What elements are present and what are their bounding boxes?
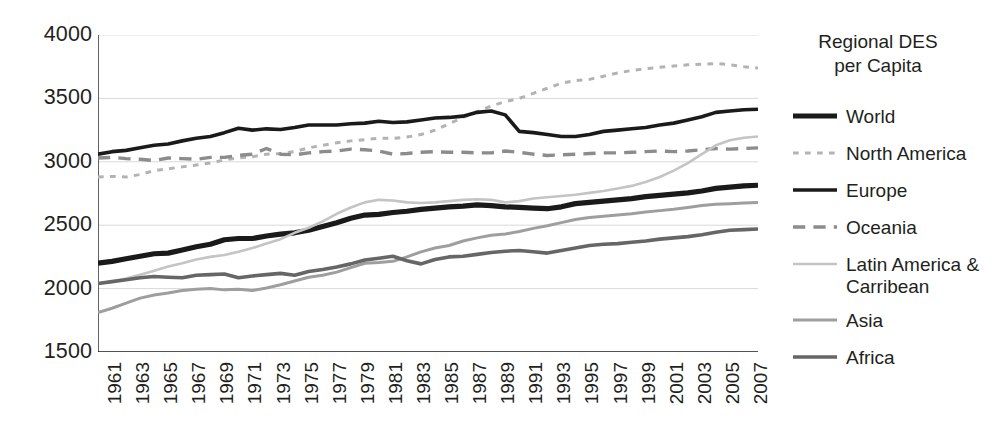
legend-title: Regional DESper Capita	[795, 30, 961, 79]
legend-swatch-icon	[793, 105, 837, 127]
x-tick-label: 1975	[302, 362, 321, 404]
x-tick-label: 1997	[611, 362, 630, 404]
legend-item-asia[interactable]: Asia	[793, 309, 993, 335]
legend: Regional DESper Capita WorldNorth Americ…	[793, 30, 993, 383]
x-tick-label: 2007	[751, 362, 770, 404]
x-tick-label: 1999	[639, 362, 658, 404]
x-tick-label: 1985	[442, 362, 461, 404]
legend-label-line-1: Latin America &	[846, 254, 979, 276]
y-axis: 400035003000250020001500	[0, 0, 92, 436]
y-tick-label: 2000	[6, 278, 92, 300]
legend-label-line-1: Africa	[846, 347, 895, 369]
legend-label-line-1: North America	[846, 143, 966, 165]
x-tick-label: 1969	[217, 362, 236, 404]
legend-label-line-1: Europe	[846, 180, 907, 202]
legend-item-label: World	[846, 105, 895, 128]
x-tick-label: 1991	[526, 362, 545, 404]
legend-item-latin-america-carribean[interactable]: Latin America &Carribean	[793, 253, 993, 299]
series-line-asia	[98, 202, 758, 312]
x-tick-label: 1981	[386, 362, 405, 404]
legend-item-world[interactable]: World	[793, 105, 993, 131]
legend-label-line-2: Carribean	[846, 276, 979, 298]
legend-items: WorldNorth AmericaEuropeOceaniaLatin Ame…	[793, 105, 993, 373]
chart-root: 400035003000250020001500 196119631965196…	[0, 0, 1002, 436]
y-tick-label: 2500	[6, 214, 92, 236]
x-tick-label: 1989	[498, 362, 517, 404]
x-tick-label: 1961	[105, 362, 124, 404]
plot-area	[98, 35, 758, 352]
legend-item-label: Oceania	[846, 216, 917, 239]
legend-title-line-1: Regional DES	[795, 30, 961, 54]
x-tick-label: 2001	[667, 362, 686, 404]
legend-item-oceania[interactable]: Oceania	[793, 216, 993, 242]
x-tick-label: 2003	[695, 362, 714, 404]
legend-item-north-america[interactable]: North America	[793, 142, 993, 168]
y-tick-label: 4000	[6, 24, 92, 46]
x-tick-label: 1967	[189, 362, 208, 404]
x-tick-label: 1971	[245, 362, 264, 404]
x-tick-label: 1983	[414, 362, 433, 404]
legend-item-label: Asia	[846, 309, 883, 332]
x-tick-label: 2005	[723, 362, 742, 404]
legend-label-line-1: Oceania	[846, 217, 917, 239]
x-axis: 1961196319651967196919711973197519771979…	[98, 362, 758, 436]
x-tick-label: 1987	[470, 362, 489, 404]
x-tick-label: 1995	[582, 362, 601, 404]
x-tick-label: 1993	[554, 362, 573, 404]
legend-item-label: Africa	[846, 346, 895, 369]
legend-swatch-icon	[793, 142, 837, 164]
legend-swatch-icon	[793, 346, 837, 368]
legend-swatch-icon	[793, 179, 837, 201]
series-line-oceania	[98, 148, 758, 161]
legend-swatch-icon	[793, 253, 837, 275]
y-tick-label: 1500	[6, 341, 92, 363]
series-line-world	[98, 185, 758, 263]
legend-swatch-icon	[793, 216, 837, 238]
legend-swatch-icon	[793, 309, 837, 331]
legend-item-label: North America	[846, 142, 966, 165]
legend-label-line-1: Asia	[846, 310, 883, 332]
series-line-europe	[98, 109, 758, 154]
legend-item-label: Latin America &Carribean	[846, 253, 979, 299]
legend-item-europe[interactable]: Europe	[793, 179, 993, 205]
legend-item-label: Europe	[846, 179, 907, 202]
legend-label-line-1: World	[846, 106, 895, 128]
x-tick-label: 1973	[274, 362, 293, 404]
legend-item-africa[interactable]: Africa	[793, 346, 993, 372]
series-line-africa	[98, 229, 758, 284]
plot-svg	[98, 35, 758, 352]
y-tick-label: 3500	[6, 87, 92, 109]
x-tick-label: 1965	[161, 362, 180, 404]
x-tick-label: 1979	[358, 362, 377, 404]
y-tick-label: 3000	[6, 151, 92, 173]
legend-title-line-2: per Capita	[795, 54, 961, 78]
x-tick-label: 1977	[330, 362, 349, 404]
x-tick-label: 1963	[133, 362, 152, 404]
